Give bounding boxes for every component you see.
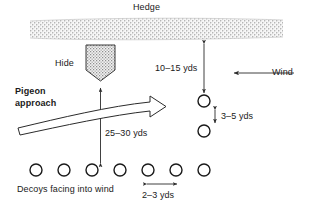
decoy-row-bottom	[30, 164, 210, 176]
hedge-label: Hedge	[133, 2, 160, 13]
hedge-to-decoy-distance-label: 10–15 yds	[155, 63, 197, 74]
decoy-circle	[142, 164, 154, 176]
pigeon-approach-label-line1: Pigeon	[15, 86, 46, 97]
pigeon-decoy-layout-diagram: Hedge Hide Pigeon approach Wind 10–15 yd…	[0, 0, 311, 213]
decoy-circle	[114, 164, 126, 176]
decoy-circle	[170, 164, 182, 176]
column-spacing-distance-label: 3–5 yds	[221, 111, 253, 122]
decoy-column-right	[198, 95, 210, 137]
pigeon-approach-label-line2: approach	[15, 98, 56, 109]
row-spacing-distance-label: 2–3 yds	[142, 190, 174, 201]
decoys-caption: Decoys facing into wind	[17, 184, 114, 195]
wind-label: Wind	[272, 67, 293, 78]
decoy-circle	[198, 164, 210, 176]
hedge-band	[30, 18, 283, 40]
hide-label: Hide	[55, 58, 74, 69]
hide-to-decoys-distance-label: 25–30 yds	[105, 128, 147, 139]
decoy-circle	[198, 95, 210, 107]
decoy-circle	[86, 164, 98, 176]
decoy-circle	[58, 164, 70, 176]
hide-shape	[86, 45, 115, 81]
decoy-circle	[30, 164, 42, 176]
decoy-circle	[198, 125, 210, 137]
